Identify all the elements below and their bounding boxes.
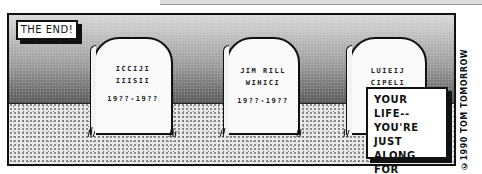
caption-the-end: THE END! (16, 20, 78, 40)
tombstone-line: JIM RILL (228, 67, 298, 75)
tombstone-dates: 19??-19?? (228, 97, 298, 105)
tombstone-dates: 19??-19?? (95, 95, 171, 103)
tombstone-line: CIPELI (351, 79, 425, 87)
tombstone-line: ICCIJI (95, 65, 171, 73)
tombstone-2: JIM RILL WIHICI 19??-19?? (226, 37, 300, 135)
grass-tuft-icon (295, 127, 303, 137)
caption-your-life: YOUR LIFE-- YOU'RE JUST ALONG FOR THE RI… (366, 87, 448, 159)
tombstone-line: LUIEIJ (351, 67, 425, 75)
grass-tuft-icon (169, 127, 177, 137)
tombstone-1: ICCIJI IIISII 19??-19?? (93, 37, 173, 135)
grass-tuft-icon (219, 127, 227, 137)
artist-credit: ©1990 TOM TOMORROW (460, 30, 480, 170)
grass-tuft-icon (343, 127, 351, 137)
caption-line: YOU'RE JUST (374, 121, 440, 149)
grass-tuft-icon (87, 127, 95, 137)
previous-panel-edge (160, 0, 482, 5)
caption-line: YOUR LIFE-- (374, 93, 440, 121)
tombstone-line: WIHICI (228, 79, 298, 87)
caption-line: ALONG FOR (374, 149, 440, 174)
tombstone-line: IIISII (95, 77, 171, 85)
